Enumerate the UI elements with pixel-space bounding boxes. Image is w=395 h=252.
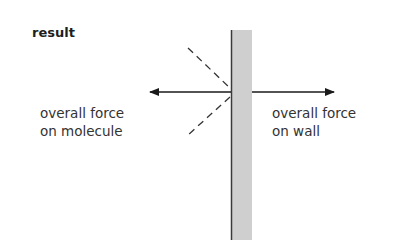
molecule-force-label: overall force on molecule — [40, 104, 124, 140]
molecule-force-label-line1: overall force — [40, 104, 124, 122]
rebound-path-dashed — [188, 97, 230, 135]
wall-force-label-line1: overall force — [272, 104, 356, 122]
wall-force-label-line2: on wall — [272, 122, 356, 140]
wall — [231, 30, 252, 240]
incoming-path-dashed — [188, 48, 230, 88]
molecule-force-label-line2: on molecule — [40, 122, 124, 140]
wall-force-label: overall force on wall — [272, 104, 356, 140]
